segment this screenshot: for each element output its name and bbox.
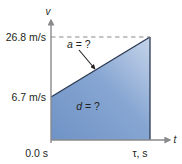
y-tick-label-final-velocity: 26.8 m/s [6,31,46,43]
velocity-time-graph-figure: v t 26.8 m/s 6.7 m/s 0.0 s τ, s a = ? d … [0,0,182,164]
x-tick-label-origin: 0.0 s [25,147,48,159]
x-tick-label-tau: τ, s [132,147,147,159]
acceleration-equals-unknown: = ? [73,38,91,50]
t-axis-label: t [174,134,178,145]
v-axis-label: v [46,6,52,17]
distance-annotation-label: d = ? [76,100,100,112]
distance-equals-unknown: = ? [82,100,100,112]
acceleration-annotation-arrow [79,50,95,69]
acceleration-annotation-label: a = ? [67,38,91,50]
y-tick-label-initial-velocity: 6.7 m/s [12,91,46,103]
